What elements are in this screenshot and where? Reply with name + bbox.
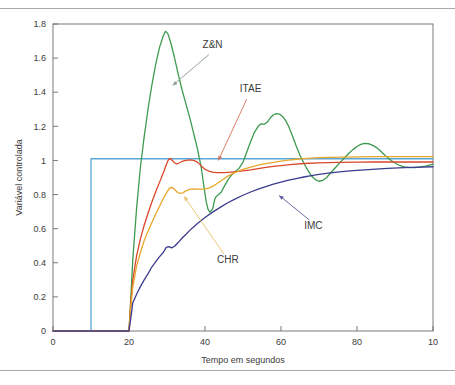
series-line-imc [53, 167, 433, 331]
x-tick-label: 60 [276, 337, 286, 347]
annotation-leader-z-n [173, 55, 209, 86]
x-tick-label: 0 [50, 337, 55, 347]
top-divider-rule [0, 8, 455, 9]
x-axis-title: Tempo em segundos [201, 355, 285, 365]
y-tick-label: 1.8 [33, 19, 46, 29]
annotation-leader-imc [279, 195, 309, 220]
series-group [53, 31, 433, 331]
bottom-divider-rule [0, 370, 455, 371]
annotation-leader-chr [184, 196, 224, 254]
y-tick-label: 1.4 [33, 87, 46, 97]
plot-frame-rect [53, 24, 433, 331]
y-axis: 00.20.40.60.811.21.41.61.8 [33, 19, 58, 336]
series-label-chr: CHR [217, 254, 239, 265]
y-tick-label: 0.6 [33, 224, 46, 234]
series-line-chr [53, 157, 433, 331]
x-tick-label: 80 [352, 337, 362, 347]
y-axis-title: Variável controlada [14, 139, 24, 215]
line-chart: 00.20.40.60.811.21.41.61.802040608010Tem… [0, 0, 455, 385]
x-axis: 02040608010 [50, 326, 438, 347]
y-tick-label: 1 [41, 156, 46, 166]
annotation-arrowhead-chr [184, 196, 188, 201]
y-tick-label: 0.2 [33, 292, 46, 302]
figure-container: 00.20.40.60.811.21.41.61.802040608010Tem… [0, 0, 455, 385]
x-tick-label: 40 [200, 337, 210, 347]
series-line-z-n [53, 31, 433, 331]
plot-frame [53, 24, 433, 331]
x-tick-label: 10 [428, 337, 438, 347]
series-label-itae: ITAE [240, 83, 262, 94]
y-tick-label: 0 [41, 326, 46, 336]
series-label-z-n: Z&N [203, 39, 223, 50]
annotation-leader-itae [218, 99, 247, 160]
y-tick-label: 1.2 [33, 122, 46, 132]
series-line-itae [53, 158, 433, 331]
series-line-setpoint [53, 159, 433, 331]
y-tick-label: 1.6 [33, 53, 46, 63]
y-tick-label: 0.4 [33, 258, 46, 268]
annotations-group: Z&NITAECHRIMC [173, 39, 323, 265]
y-tick-label: 0.8 [33, 190, 46, 200]
x-tick-label: 20 [124, 337, 134, 347]
series-label-imc: IMC [304, 220, 322, 231]
